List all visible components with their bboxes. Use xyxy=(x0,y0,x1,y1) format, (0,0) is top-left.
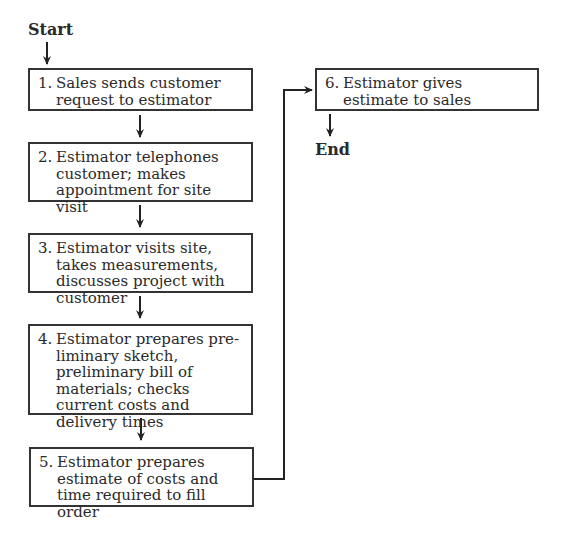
step-6-box: 6.Estimator gives estimate to sales xyxy=(315,68,539,111)
step-1-box: 1.Sales sends customer request to estima… xyxy=(28,68,253,111)
step-number: 5. xyxy=(39,454,57,520)
step-number: 2. xyxy=(38,149,56,215)
step-text: Estimator prepares pre-liminary sketch, … xyxy=(56,331,245,430)
step-2-box: 2.Estimator telephones customer; makes a… xyxy=(28,142,253,202)
step-3-box: 3.Estimator visits site, takes measureme… xyxy=(28,233,253,293)
step-5-box: 5.Estimator prepares estimate of costs a… xyxy=(29,447,254,507)
step-number: 6. xyxy=(325,75,343,108)
end-terminal: End xyxy=(315,140,350,159)
step-text: Estimator gives estimate to sales xyxy=(343,75,531,108)
step-number: 4. xyxy=(38,331,56,430)
start-terminal: Start xyxy=(28,20,73,39)
step-number: 1. xyxy=(38,75,56,108)
step-text: Estimator telephones customer; makes app… xyxy=(56,149,245,215)
step-text: Estimator visits site, takes measurement… xyxy=(56,240,245,306)
step-text: Estimator prepares estimate of costs and… xyxy=(57,454,246,520)
step-4-box: 4.Estimator prepares pre-liminary sketch… xyxy=(28,324,253,415)
step-number: 3. xyxy=(38,240,56,306)
step-text: Sales sends customer request to estimato… xyxy=(56,75,245,108)
